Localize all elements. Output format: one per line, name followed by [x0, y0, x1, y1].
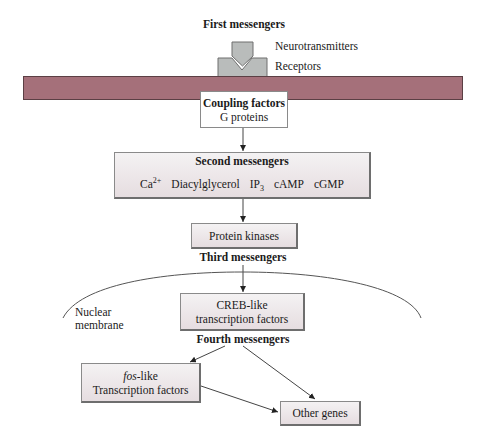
- second-messengers-list: Ca2+ Diacylglycerol IP3 cAMP cGMP: [140, 174, 344, 196]
- nuclear-membrane-label: Nuclear membrane: [75, 306, 124, 332]
- fos-line1: fos-like: [123, 369, 158, 383]
- second-messenger-item: Ca2+: [140, 174, 161, 191]
- neurotransmitters-label: Neurotransmitters: [275, 40, 358, 52]
- coupling-factors-subtitle: G proteins: [220, 110, 268, 124]
- coupling-factors-title: Coupling factors: [203, 96, 285, 110]
- arrow-fourth-to-other: [243, 346, 315, 399]
- other-genes-box: Other genes: [280, 401, 361, 426]
- other-genes-label: Other genes: [292, 406, 347, 420]
- second-messenger-item: cAMP: [274, 177, 304, 191]
- creb-line2: transcription factors: [196, 312, 288, 326]
- nuclear-membrane-line1: Nuclear: [75, 306, 124, 319]
- nuclear-membrane-line2: membrane: [75, 319, 124, 332]
- second-messenger-item: Diacylglycerol: [171, 177, 239, 191]
- fourth-messengers-label: Fourth messengers: [175, 333, 311, 345]
- second-messengers-title: Second messengers: [195, 154, 289, 168]
- creb-line1: CREB-like: [216, 298, 267, 312]
- second-messenger-item: cGMP: [314, 177, 344, 191]
- protein-kinases-box: Protein kinases: [191, 223, 298, 249]
- second-messengers-box: Second messengers Ca2+ Diacylglycerol IP…: [114, 152, 371, 199]
- first-messengers-label: First messengers: [200, 18, 288, 30]
- coupling-factors-box: Coupling factors G proteins: [200, 91, 288, 128]
- creb-box: CREB-like transcription factors: [180, 293, 305, 331]
- second-messenger-item: IP3: [250, 177, 264, 196]
- third-messengers-label: Third messengers: [180, 251, 306, 263]
- fos-like-box: fos-like Transcription factors: [81, 363, 201, 403]
- arrow-fourth-to-fos: [190, 346, 225, 362]
- receptors-label: Receptors: [275, 60, 321, 72]
- fos-line2: Transcription factors: [93, 383, 189, 397]
- arrow-fos-to-other: [201, 386, 278, 412]
- protein-kinases-label: Protein kinases: [209, 229, 279, 243]
